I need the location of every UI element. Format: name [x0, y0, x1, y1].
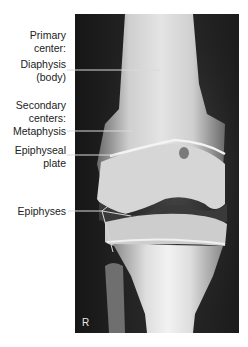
label-diaphysis: Diaphysis (body) [20, 58, 66, 83]
label-epiphyses: Epiphyses [18, 205, 66, 218]
label-epiphyseal-plate: Epiphyseal plate [15, 144, 66, 169]
label-secondary-centers: Secondary centers: [16, 99, 66, 124]
label-primary-center: Primary center: [30, 29, 66, 54]
label-metaphysis: Metaphysis [13, 125, 66, 138]
leader-line-epiphyses-femur [102, 190, 128, 211]
leader-line-epiphyses-fibula [102, 211, 113, 252]
leader-line-epiphyses-tibia [102, 211, 131, 216]
